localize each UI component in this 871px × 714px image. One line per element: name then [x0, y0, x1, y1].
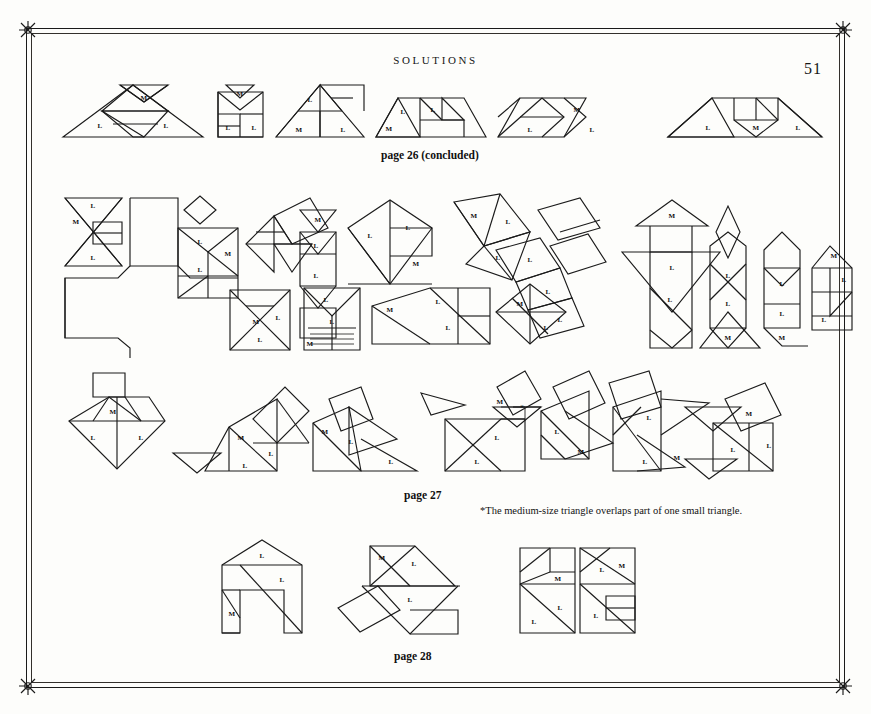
- figure-row-page28: L L M M L L: [210, 538, 650, 643]
- svg-text:M: M: [669, 212, 676, 220]
- tangram-figure: M L L: [685, 383, 781, 479]
- tangram-figure: [246, 198, 328, 272]
- svg-text:M: M: [238, 434, 245, 442]
- svg-text:L: L: [767, 442, 772, 450]
- svg-text:M: M: [574, 106, 581, 114]
- svg-text:M: M: [386, 125, 393, 133]
- tangram-figure: [538, 198, 606, 274]
- svg-text:M: M: [831, 252, 838, 260]
- svg-text:L: L: [280, 576, 285, 584]
- tangram-figure: [65, 198, 238, 358]
- svg-text:L: L: [139, 434, 144, 442]
- footnote-overlap-note: *The medium-size triangle overlaps part …: [480, 505, 742, 516]
- svg-text:L: L: [528, 256, 533, 264]
- svg-text:L: L: [670, 264, 675, 272]
- book-page: SOLUTIONS 51 M L L: [0, 0, 871, 714]
- svg-text:L: L: [198, 266, 203, 274]
- svg-text:L: L: [314, 242, 319, 250]
- svg-text:M: M: [725, 334, 732, 342]
- svg-text:*: *: [520, 404, 524, 413]
- tangram-figure: L M L: [668, 98, 822, 137]
- tangram-figure: L L M: [348, 200, 432, 284]
- running-head: SOLUTIONS: [0, 54, 871, 66]
- svg-text:L: L: [546, 288, 551, 296]
- svg-text:M: M: [497, 398, 504, 406]
- svg-text:M: M: [229, 610, 236, 618]
- svg-text:L: L: [706, 124, 711, 132]
- svg-text:L: L: [496, 254, 501, 262]
- svg-text:M: M: [237, 90, 244, 98]
- svg-text:L: L: [252, 124, 257, 132]
- svg-text:L: L: [226, 124, 231, 132]
- tangram-figure: M L L: [218, 85, 263, 137]
- svg-text:L: L: [314, 272, 319, 280]
- svg-text:M: M: [753, 124, 760, 132]
- svg-text:L: L: [446, 324, 451, 332]
- tangram-figure: M * L L: [445, 371, 541, 471]
- tangram-figure: M L L: [63, 85, 203, 137]
- svg-text:M: M: [779, 334, 786, 342]
- svg-text:L: L: [431, 106, 436, 114]
- tangram-figure: M L L: [454, 194, 530, 280]
- svg-text:M: M: [578, 448, 585, 456]
- svg-text:L: L: [243, 462, 248, 470]
- tangram-figure: M L L: [520, 548, 575, 633]
- svg-text:L: L: [822, 316, 827, 324]
- tangram-figure: L M: [493, 371, 613, 459]
- svg-text:L: L: [780, 280, 785, 288]
- caption-page-26: page 26 (concluded): [381, 149, 479, 161]
- corner-ornament-icon: [17, 675, 39, 697]
- tangram-figure: M L L: [230, 290, 290, 350]
- page-number: 51: [804, 60, 822, 78]
- tangram-figure: L M L: [498, 98, 595, 137]
- tangram-figure: L M L: [65, 198, 122, 266]
- tangram-figure: L M L: [276, 85, 364, 137]
- svg-text:L: L: [731, 446, 736, 454]
- svg-text:M: M: [746, 410, 753, 418]
- svg-text:M: M: [413, 260, 420, 268]
- svg-text:L: L: [532, 618, 537, 626]
- svg-text:L: L: [495, 434, 500, 442]
- tangram-figure: L M L: [178, 228, 238, 298]
- svg-text:L: L: [726, 300, 731, 308]
- svg-text:L: L: [308, 96, 313, 104]
- tangram-figure: M L L: [205, 387, 309, 471]
- svg-text:M: M: [307, 340, 314, 348]
- svg-text:L: L: [558, 316, 563, 324]
- svg-text:L: L: [91, 434, 96, 442]
- svg-text:M: M: [517, 300, 524, 308]
- figure-row-page26: M L L M L L: [58, 80, 838, 142]
- svg-text:L: L: [276, 314, 281, 322]
- svg-text:L: L: [780, 310, 785, 318]
- caption-page-28: page 28: [394, 650, 431, 662]
- svg-text:L: L: [324, 296, 329, 304]
- svg-text:M: M: [110, 408, 117, 416]
- svg-text:M: M: [141, 94, 148, 102]
- corner-ornament-icon: [832, 19, 854, 41]
- svg-text:L: L: [91, 254, 96, 262]
- figure-row-page27-lower: M L L M L L: [60, 366, 850, 488]
- svg-text:L: L: [412, 560, 417, 568]
- tangram-figure: L M L: [376, 98, 486, 137]
- tangram-figure: M L L: [338, 546, 460, 634]
- svg-text:L: L: [726, 272, 731, 280]
- svg-text:L: L: [330, 318, 335, 326]
- svg-text:L: L: [258, 336, 263, 344]
- svg-text:M: M: [315, 216, 322, 224]
- svg-text:M: M: [73, 218, 80, 226]
- svg-text:L: L: [555, 428, 560, 436]
- svg-text:L: L: [475, 458, 480, 466]
- svg-text:L: L: [98, 122, 103, 130]
- tangram-figure: L L M: [764, 232, 808, 346]
- tangram-figure: M L L: [580, 548, 635, 633]
- svg-text:L: L: [260, 552, 265, 560]
- svg-text:M: M: [322, 428, 329, 436]
- tangram-figure: L L M: [304, 288, 360, 350]
- tangram-figure: M L L: [622, 200, 720, 348]
- tangram-figure: M L: [496, 284, 566, 344]
- tangram-figure: [421, 393, 465, 415]
- svg-text:M: M: [253, 318, 260, 326]
- tangram-figure: M L L: [812, 246, 852, 330]
- svg-text:M: M: [379, 554, 386, 562]
- tangram-figure: L L M: [700, 206, 760, 348]
